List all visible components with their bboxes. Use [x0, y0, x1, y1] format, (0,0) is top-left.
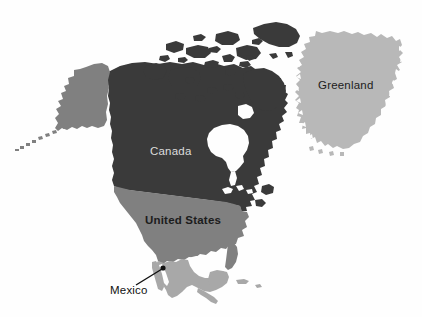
map-canvas: [0, 0, 422, 317]
north-america-map-figure: Canada United States Mexico Greenland: [0, 0, 422, 317]
mexico-leader-dot: [160, 265, 165, 270]
